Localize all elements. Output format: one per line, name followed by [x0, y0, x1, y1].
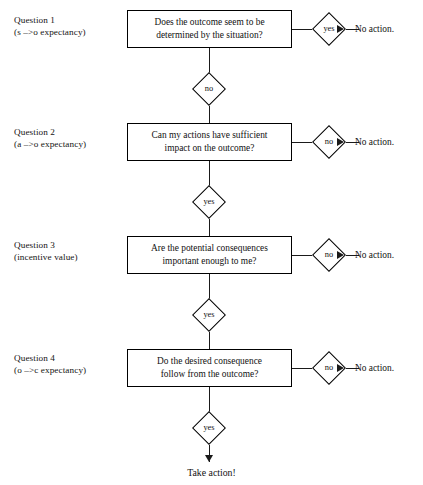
take-action-arrowhead-icon — [205, 455, 213, 462]
no-action-label-1: No action. — [355, 23, 394, 35]
question-label-2: Question 2 (a –>o expectancy) — [14, 126, 126, 151]
flow-connector-2-bottom — [209, 219, 210, 236]
take-action-label: Take action! — [0, 467, 423, 478]
branch-connector-2 — [292, 142, 312, 143]
flow-connector-4-top — [209, 387, 210, 412]
no-action-label-2: No action. — [355, 136, 394, 148]
process-box-2-line1: Can my actions have sufficient — [152, 129, 268, 142]
branch-arrowhead-1-icon — [337, 25, 344, 33]
flow-connector-3-top — [209, 274, 210, 299]
flow-connector-3-bottom — [209, 332, 210, 349]
process-box-3-line1: Are the potential consequences — [151, 242, 268, 255]
process-box-1-line1: Does the outcome seem to be — [154, 16, 264, 29]
process-box-4-line1: Do the desired consequence — [157, 355, 262, 368]
branch-connector-4 — [292, 368, 312, 369]
flow-diamond-1-label: no — [192, 72, 226, 106]
process-box-1-line2: determined by the situation? — [156, 29, 262, 42]
process-box-2-line2: impact on the outcome? — [165, 142, 255, 155]
process-box-4[interactable]: Do the desired consequence follow from t… — [127, 349, 292, 387]
branch-connector-1 — [292, 29, 312, 30]
question-label-1: Question 1 (s –>o expectancy) — [14, 14, 126, 39]
flow-diamond-4-label: yes — [192, 411, 226, 445]
question-subtitle-1: (s –>o expectancy) — [14, 26, 126, 38]
question-title-1: Question 1 — [14, 14, 126, 26]
process-box-1[interactable]: Does the outcome seem to be determined b… — [127, 10, 292, 48]
flow-diamond-3-label: yes — [192, 298, 226, 332]
flow-connector-1-top — [209, 48, 210, 73]
question-subtitle-2: (a –>o expectancy) — [14, 138, 126, 150]
branch-connector-3 — [292, 255, 312, 256]
flow-diamond-2-label: yes — [192, 185, 226, 219]
question-title-4: Question 4 — [14, 352, 126, 364]
question-title-2: Question 2 — [14, 126, 126, 138]
flow-connector-2-top — [209, 161, 210, 186]
question-subtitle-4: (o –>c expectancy) — [14, 364, 126, 376]
question-subtitle-3: (incentive value) — [14, 251, 126, 263]
process-box-3[interactable]: Are the potential consequences important… — [127, 236, 292, 274]
flow-diamond-1[interactable]: no — [192, 72, 226, 106]
flow-connector-1-bottom — [209, 106, 210, 123]
process-box-2[interactable]: Can my actions have sufficient impact on… — [127, 123, 292, 161]
no-action-label-3: No action. — [355, 249, 394, 261]
process-box-3-line2: important enough to me? — [163, 255, 257, 268]
no-action-label-4: No action. — [355, 362, 394, 374]
branch-arrowhead-2-icon — [337, 138, 344, 146]
flowchart-canvas: Question 1 (s –>o expectancy) Does the o… — [0, 0, 423, 485]
flow-diamond-2[interactable]: yes — [192, 185, 226, 219]
question-label-3: Question 3 (incentive value) — [14, 239, 126, 264]
question-label-4: Question 4 (o –>c expectancy) — [14, 352, 126, 377]
branch-arrowhead-3-icon — [337, 251, 344, 259]
branch-arrowhead-4-icon — [337, 364, 344, 372]
question-title-3: Question 3 — [14, 239, 126, 251]
process-box-4-line2: follow from the outcome? — [161, 368, 259, 381]
flow-diamond-3[interactable]: yes — [192, 298, 226, 332]
flow-diamond-4[interactable]: yes — [192, 411, 226, 445]
